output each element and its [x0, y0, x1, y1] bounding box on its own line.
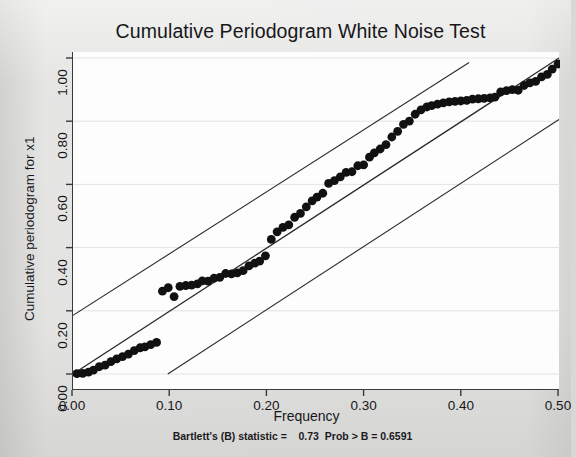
data-point: [170, 292, 179, 301]
upper-confidence-band: [73, 63, 469, 316]
reference-line-45deg: [73, 58, 559, 374]
data-point: [296, 209, 305, 218]
chart-title: Cumulative Periodogram White Noise Test: [0, 20, 571, 43]
data-point: [393, 127, 402, 136]
data-point: [382, 140, 391, 149]
y-tick-label: 0.40: [55, 246, 70, 298]
bartlett-statistic-note: Bartlett's (B) statistic = 0.73 Prob > B…: [0, 430, 571, 442]
data-point: [318, 189, 327, 198]
data-point-markers: [73, 60, 560, 378]
data-point: [284, 220, 293, 229]
plot-svg: [73, 52, 560, 390]
reference-line: [73, 58, 559, 374]
y-tick-label: 0.80: [55, 120, 70, 172]
y-tick-label: 1.00: [55, 57, 70, 109]
data-point: [164, 283, 173, 292]
y-tick-label: 0.60: [55, 183, 70, 235]
x-axis-label: Frequency: [0, 408, 571, 424]
data-point: [152, 338, 161, 347]
data-point: [267, 235, 276, 244]
data-point: [359, 160, 368, 169]
y-tick-label: 0.20: [55, 309, 70, 361]
y-axis-label: Cumulative periodogram for x1: [22, 136, 37, 321]
data-point: [405, 117, 414, 126]
plot-area: [72, 52, 559, 390]
lower-confidence-band: [168, 119, 559, 374]
data-point: [261, 251, 270, 260]
